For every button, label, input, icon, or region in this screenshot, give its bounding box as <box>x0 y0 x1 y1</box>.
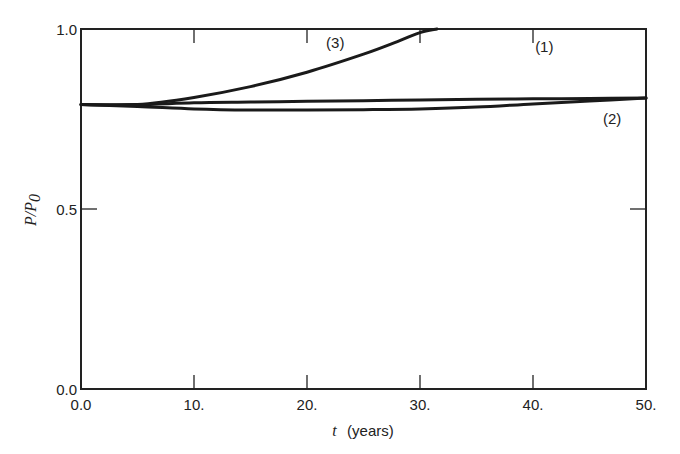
y-axis-title: P/P0 <box>22 194 43 227</box>
x-tick-label: 0.0 <box>71 396 92 413</box>
x-tick-label: 50. <box>636 396 657 413</box>
curve-labels: (1)(2)(3) <box>326 34 621 127</box>
y-axis: 0.00.51.0 <box>56 21 646 398</box>
x-axis-title: t (years) <box>332 422 394 439</box>
curves <box>81 29 646 110</box>
curve-label-1: (1) <box>535 38 553 55</box>
curve-label-3: (3) <box>326 34 344 51</box>
curve-3 <box>81 29 437 105</box>
x-tick-label: 20. <box>297 396 318 413</box>
plot-area <box>81 29 646 389</box>
x-tick-label: 30. <box>410 396 431 413</box>
x-axis: 0.010.20.30.40.50. <box>71 29 657 413</box>
x-tick-label: 40. <box>523 396 544 413</box>
y-tick-label: 0.0 <box>56 381 77 398</box>
curve-label-2: (2) <box>603 110 621 127</box>
y-tick-label: 1.0 <box>56 21 77 38</box>
y-tick-label: 0.5 <box>56 201 77 218</box>
plot-frame <box>81 29 646 389</box>
x-tick-label: 10. <box>184 396 205 413</box>
chart: 0.010.20.30.40.50. 0.00.51.0 (1)(2)(3) t… <box>0 0 680 454</box>
